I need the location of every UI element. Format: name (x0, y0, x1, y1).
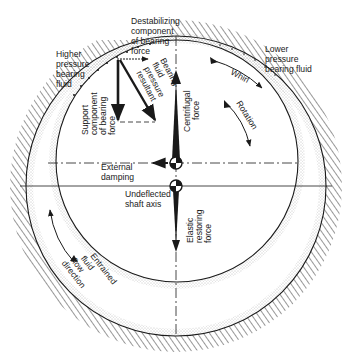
bearing-force-diagram: Destabilizing component of bearing force… (0, 0, 353, 363)
label-external-damping: External damping (101, 162, 135, 182)
shaft-center-icon (170, 157, 182, 169)
